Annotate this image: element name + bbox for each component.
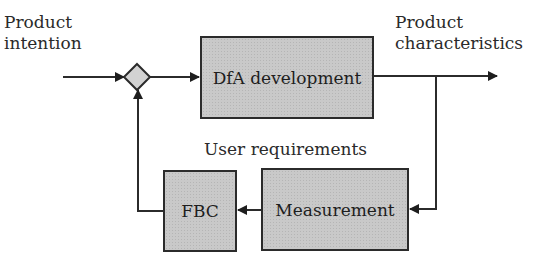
output-label: Product characteristics [395,12,523,54]
feedback-arrow [138,90,163,211]
dfa-development-block: DfA development [200,36,374,119]
input-label: Product intention [4,12,82,54]
output-label-line1: Product [395,12,523,33]
measurement-block: Measurement [261,168,409,251]
summing-junction-diamond [124,64,150,90]
input-label-line2: intention [4,33,82,54]
input-label-line1: Product [4,12,82,33]
output-label-line2: characteristics [395,33,523,54]
fbc-block: FBC [163,170,237,252]
user-requirements-label: User requirements [204,139,367,160]
branch-to-measurement-arrow [410,76,436,209]
feedback-control-diagram: Product intention Product characteristic… [0,0,549,266]
